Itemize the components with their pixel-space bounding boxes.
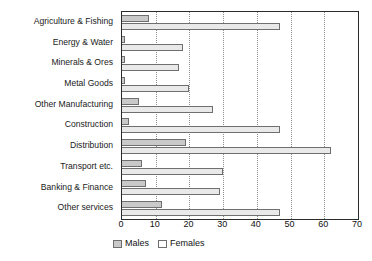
bar-males <box>122 98 139 105</box>
x-tick-label: 40 <box>251 220 261 229</box>
x-tick-label: 20 <box>183 220 193 229</box>
x-axis-tick-labels: 010203040506070 <box>121 220 359 234</box>
bar-males <box>122 77 125 84</box>
bar-group <box>122 56 358 71</box>
bar-group <box>122 180 358 195</box>
x-tick-label: 70 <box>352 220 362 229</box>
bar-males <box>122 160 142 167</box>
bar-females <box>122 106 213 113</box>
bar-groups <box>122 12 358 219</box>
bar-males <box>122 118 129 125</box>
category-label: Other services <box>0 203 117 212</box>
bar-females <box>122 85 189 92</box>
legend-swatch-icon <box>113 240 122 248</box>
bar-males <box>122 56 125 63</box>
bar-females <box>122 209 280 216</box>
bar-females <box>122 168 223 175</box>
bar-females <box>122 126 280 133</box>
bar-group <box>122 98 358 113</box>
legend-label: Males <box>125 239 149 248</box>
bar-group <box>122 77 358 92</box>
legend-swatch-icon <box>158 240 167 248</box>
category-label: Metal Goods <box>0 79 117 88</box>
x-tick-label: 50 <box>285 220 295 229</box>
bar-males <box>122 180 146 187</box>
bar-group <box>122 139 358 154</box>
plot-area <box>121 11 359 220</box>
bar-females <box>122 64 179 71</box>
bar-males <box>122 36 125 43</box>
category-label: Agriculture & Fishing <box>0 17 117 26</box>
x-tick-label: 0 <box>118 220 123 229</box>
category-label: Construction <box>0 120 117 129</box>
category-label: Distribution <box>0 141 117 150</box>
category-label: Banking & Finance <box>0 183 117 192</box>
x-tick-label: 60 <box>318 220 328 229</box>
bar-males <box>122 201 162 208</box>
x-tick-label: 10 <box>150 220 160 229</box>
category-label: Minerals & Ores <box>0 58 117 67</box>
bar-group <box>122 160 358 175</box>
legend-entry: Females <box>158 239 205 248</box>
bar-males <box>122 139 186 146</box>
category-label: Transport etc. <box>0 162 117 171</box>
bar-females <box>122 44 183 51</box>
bar-group <box>122 36 358 51</box>
category-label: Other Manufacturing <box>0 100 117 109</box>
chart-legend: MalesFemales <box>113 239 205 248</box>
category-axis-labels: Agriculture & FishingEnergy & WaterMiner… <box>0 11 117 218</box>
bar-group <box>122 15 358 30</box>
bar-chart: Agriculture & FishingEnergy & WaterMiner… <box>0 0 372 261</box>
x-tick-label: 30 <box>217 220 227 229</box>
bar-group <box>122 118 358 133</box>
bar-group <box>122 201 358 216</box>
bar-females <box>122 188 220 195</box>
legend-entry: Males <box>113 239 149 248</box>
bar-females <box>122 147 331 154</box>
bar-males <box>122 15 149 22</box>
bar-females <box>122 23 280 30</box>
legend-label: Females <box>170 239 205 248</box>
category-label: Energy & Water <box>0 38 117 47</box>
